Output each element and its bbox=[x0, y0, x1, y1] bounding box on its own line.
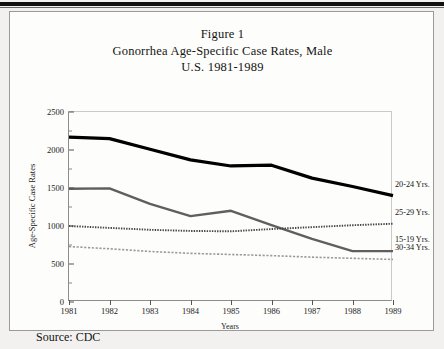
title-line-3: U.S. 1981-1989 bbox=[10, 59, 435, 76]
title-line-2: Gonorrhea Age-Specific Case Rates, Male bbox=[10, 43, 435, 60]
legend-label-3: 25-29 Yrs. bbox=[395, 208, 430, 217]
x-tick-label: 1985 bbox=[223, 306, 240, 316]
plot-area: 0500100015002000250019811982198319841985… bbox=[68, 111, 392, 301]
x-tick-mark bbox=[272, 300, 273, 305]
y-tick-minor bbox=[69, 283, 72, 284]
figure-page: Figure 1 Gonorrhea Age-Specific Case Rat… bbox=[0, 0, 444, 349]
y-tick-label: 1500 bbox=[47, 183, 69, 193]
y-tick-mark bbox=[69, 188, 74, 189]
x-tick-label: 1984 bbox=[182, 306, 199, 316]
x-tick-label: 1981 bbox=[61, 306, 78, 316]
x-tick-mark bbox=[191, 300, 192, 305]
x-tick-mark bbox=[69, 300, 70, 305]
series-line bbox=[69, 188, 393, 251]
x-tick-label: 1989 bbox=[385, 306, 402, 316]
series-line bbox=[69, 137, 393, 196]
x-tick-label: 1987 bbox=[304, 306, 321, 316]
x-tick-mark bbox=[150, 300, 151, 305]
y-tick-label: 1000 bbox=[47, 221, 69, 231]
y-tick-mark bbox=[69, 264, 74, 265]
page-top-rule bbox=[0, 2, 444, 6]
page-top-rule-thin bbox=[0, 7, 444, 8]
x-tick-mark bbox=[231, 300, 232, 305]
figure-title: Figure 1 Gonorrhea Age-Specific Case Rat… bbox=[10, 26, 435, 76]
x-tick-label: 1986 bbox=[263, 306, 280, 316]
title-line-1: Figure 1 bbox=[10, 26, 435, 43]
y-tick-mark bbox=[69, 150, 74, 151]
x-tick-mark bbox=[312, 300, 313, 305]
y-tick-mark bbox=[69, 226, 74, 227]
legend-label-4: 30-34 Yrs. bbox=[395, 243, 430, 252]
x-tick-label: 1982 bbox=[101, 306, 118, 316]
y-tick-minor bbox=[69, 131, 72, 132]
y-tick-minor bbox=[69, 207, 72, 208]
y-tick-label: 2500 bbox=[47, 107, 69, 117]
x-tick-mark bbox=[393, 300, 394, 305]
x-tick-mark bbox=[353, 300, 354, 305]
legend-label-1: 20-24 Yrs. bbox=[395, 180, 430, 189]
x-tick-label: 1988 bbox=[344, 306, 361, 316]
y-tick-minor bbox=[69, 245, 72, 246]
series-lines bbox=[69, 112, 393, 302]
y-tick-label: 2000 bbox=[47, 145, 69, 155]
y-tick-mark bbox=[69, 112, 74, 113]
series-line bbox=[69, 224, 393, 232]
x-tick-mark bbox=[110, 300, 111, 305]
source-note: Source: CDC bbox=[36, 330, 100, 345]
y-axis-label: Age-Specific Case Rates bbox=[27, 164, 37, 249]
figure-container: Figure 1 Gonorrhea Age-Specific Case Rat… bbox=[9, 11, 434, 331]
y-tick-label: 500 bbox=[51, 259, 69, 269]
x-tick-label: 1983 bbox=[142, 306, 159, 316]
y-tick-minor bbox=[69, 169, 72, 170]
x-axis-label: Years bbox=[221, 322, 239, 331]
